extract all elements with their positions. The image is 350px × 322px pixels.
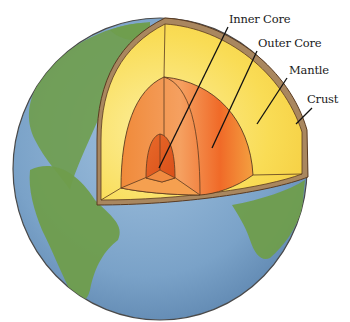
label-inner-core: Inner Core [229,12,290,26]
label-crust: Crust [307,92,338,106]
label-mantle: Mantle [289,63,329,77]
label-outer-core: Outer Core [258,36,321,50]
